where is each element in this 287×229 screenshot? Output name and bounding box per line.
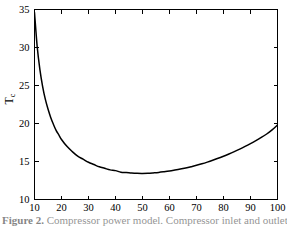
x-axis-ticks — [35, 10, 278, 200]
figure-caption: Figure 2. Compressor power model. Compre… — [0, 214, 287, 229]
plot-area: Tc 102030405060708090100 101520253035 — [0, 0, 287, 212]
figure-caption-prefix: Figure 2. — [2, 214, 44, 226]
y-tick-label: 25 — [19, 80, 30, 91]
data-series-group — [35, 13, 278, 174]
axis-frame — [35, 10, 278, 200]
y-tick-label: 10 — [19, 194, 30, 205]
x-tick-label: 70 — [191, 202, 202, 212]
x-tick-label: 20 — [56, 202, 67, 212]
x-tick-label: 80 — [218, 202, 229, 212]
y-tick-label: 20 — [19, 118, 30, 129]
y-tick-label: 15 — [19, 156, 30, 167]
y-axis-ticks — [35, 10, 278, 200]
line-chart-svg: 102030405060708090100 101520253035 — [0, 0, 287, 212]
y-tick-label: 30 — [19, 42, 30, 53]
data-line-tc — [35, 13, 278, 174]
x-tick-label: 100 — [270, 202, 286, 212]
figure-caption-body: Compressor power model. Compressor inlet… — [47, 214, 287, 226]
figure-caption-text: Figure 2. Compressor power model. Compre… — [2, 214, 287, 227]
x-tick-label: 60 — [164, 202, 175, 212]
x-tick-label: 90 — [245, 202, 256, 212]
x-tick-label: 30 — [83, 202, 94, 212]
x-tick-label: 40 — [110, 202, 121, 212]
x-tick-label: 50 — [137, 202, 148, 212]
y-tick-label: 35 — [19, 4, 30, 15]
y-axis-tick-labels: 101520253035 — [19, 4, 30, 205]
figure-container: Tc 102030405060708090100 101520253035 Fi… — [0, 0, 287, 229]
x-tick-label: 10 — [29, 202, 40, 212]
x-axis-tick-labels: 102030405060708090100 — [29, 202, 285, 212]
